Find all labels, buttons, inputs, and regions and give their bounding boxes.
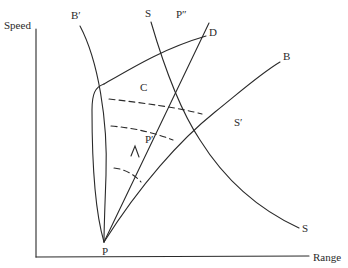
dashed-arc-lower [114, 168, 141, 182]
s-curve [151, 22, 299, 228]
b-curve [104, 62, 280, 242]
arrowhead-icon [131, 146, 139, 157]
label-s-prime: S′ [234, 117, 243, 128]
label-b: B [283, 51, 290, 62]
label-c: C [140, 82, 147, 93]
speed-range-diagram: Speed Range B′ S P″ D B C S′ P′ S P [0, 0, 348, 268]
x-axis-label: Range [313, 252, 341, 263]
diagram-canvas [0, 0, 348, 268]
label-p: P [102, 246, 108, 257]
label-s-top: S [145, 8, 151, 19]
label-p-prime: P′ [145, 134, 154, 145]
p-to-p-double-prime-line [104, 23, 209, 242]
label-p-double-prime: P″ [176, 9, 187, 20]
dashed-arc-middle [111, 126, 173, 140]
b-prime-curve [80, 26, 106, 242]
label-b-prime: B′ [71, 10, 81, 21]
x-axis [36, 256, 309, 257]
envelope-loop [92, 84, 104, 242]
label-s-bottom: S [302, 223, 308, 234]
label-d: D [209, 27, 217, 38]
dashed-arc-upper [109, 99, 202, 114]
y-axis-label: Speed [4, 20, 31, 31]
